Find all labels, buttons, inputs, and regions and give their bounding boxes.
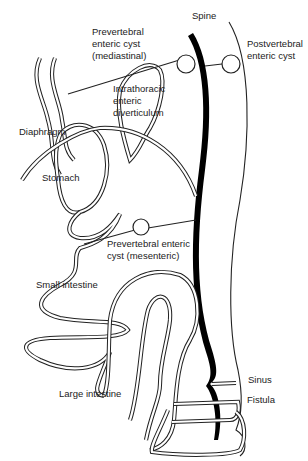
label-prevertebral-mesenteric: Prevertebral enteric cyst (mesenteric) [107,238,190,262]
label-line: Prevertebral [92,26,146,38]
label-line: (mediastinal) [92,50,146,62]
label-line: Prevertebral enteric [107,238,190,250]
label-line: cyst (mesenteric) [107,250,190,262]
label-line: diverticulum [113,107,165,119]
label-line: enteric cyst [92,38,146,50]
label-line: Postvertebral [247,38,303,50]
label-diaphragm: Diaphragm [19,126,65,138]
label-sinus: Sinus [248,374,272,386]
label-line: Intrathoracic [113,83,165,95]
label-spine: Spine [192,10,216,22]
label-stomach: Stomach [42,172,80,184]
label-fistula: Fistula [247,394,275,406]
postvertebral-stalk [205,64,222,66]
postvertebral-cyst [222,55,240,73]
prevertebral-mediastinal-cyst [177,55,195,73]
label-intrathoracic-diverticulum: Intrathoracic enteric diverticulum [113,83,165,119]
label-prevertebral-mediastinal: Prevertebral enteric cyst (mediastinal) [92,26,146,62]
prevertebral-mesenteric-cyst [133,219,149,235]
label-small-intestine: Small intestine [36,279,98,291]
label-postvertebral: Postvertebral enteric cyst [247,38,303,62]
label-line: enteric cyst [247,50,303,62]
diagram-drawing [0,0,308,461]
posterior-body-wall [229,22,247,456]
label-large-intestine: Large intestine [59,388,121,400]
spine [188,33,220,440]
label-line: enteric [113,95,165,107]
